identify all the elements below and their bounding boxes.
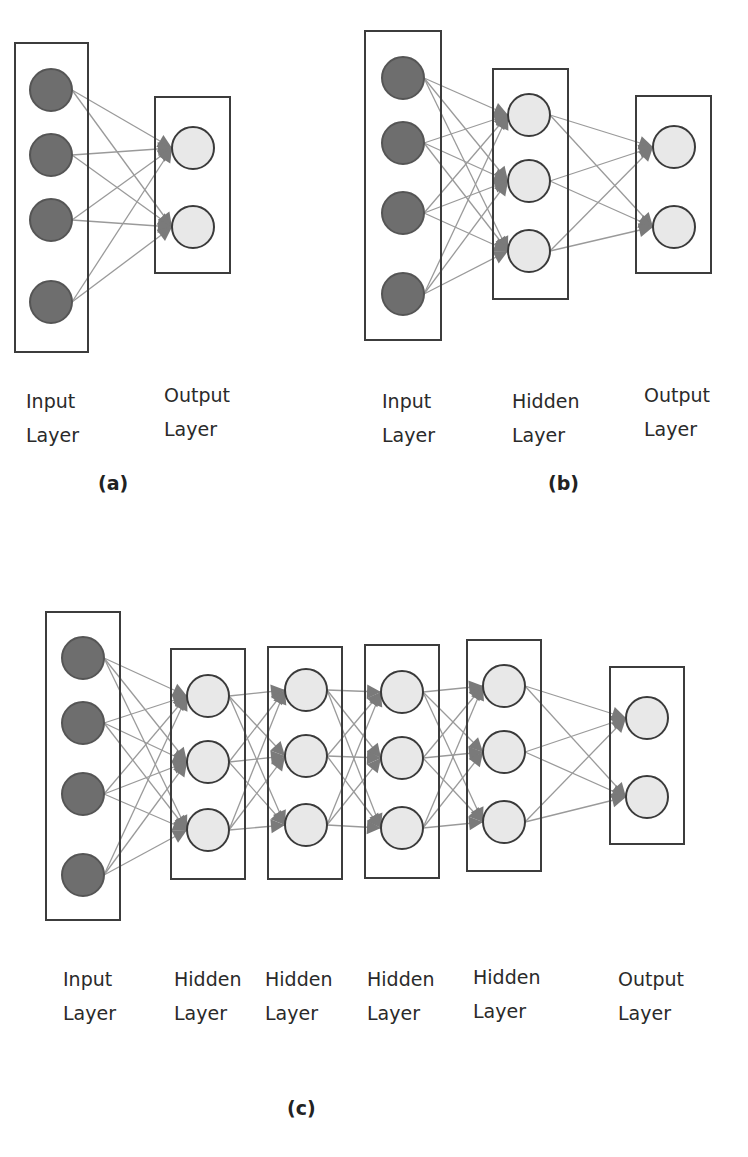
hidden-layer-label: Layer [473,994,526,1028]
output-node [626,776,668,818]
diagram-b [365,31,711,340]
hidden-node [483,665,525,707]
hidden-node [381,737,423,779]
connection-line [550,227,653,251]
connection-line [550,181,653,227]
input-node [382,57,424,99]
output-layer-label: Output [164,378,230,412]
input-layer-label: Input [382,384,431,418]
input-node [30,281,72,323]
output-layer-label: Layer [644,412,697,446]
input-node [62,773,104,815]
diagram-a [15,43,230,352]
input-layer-label: Layer [63,996,116,1030]
input-layer-label: Layer [26,418,79,452]
hidden-node [187,675,229,717]
hidden-layer-label: Layer [265,996,318,1030]
input-layer [365,31,441,340]
input-node [30,134,72,176]
arrowhead-icon [171,830,187,843]
output-layer [155,97,230,273]
hidden-layer-label: Hidden [473,960,540,994]
output-layer-label: Output [644,378,710,412]
connection-line [550,147,653,181]
hidden-node [508,160,550,202]
diagram-caption: (c) [287,1097,316,1119]
input-layer-label: Input [26,384,75,418]
input-node [30,69,72,111]
hidden-node [508,94,550,136]
input-node [62,637,104,679]
output-layer-label: Layer [618,996,671,1030]
output-node [172,127,214,169]
hidden-node [187,809,229,851]
connection-line [424,251,508,294]
output-node [626,697,668,739]
hidden-node [508,230,550,272]
hidden-layer-label: Layer [174,996,227,1030]
input-layer [46,612,120,920]
layers [46,612,684,920]
output-node [653,126,695,168]
hidden-node [187,741,229,783]
hidden-node [381,671,423,713]
input-node [62,854,104,896]
hidden-layer-label: Hidden [367,962,434,996]
connection-line [424,115,508,294]
connection-line [550,115,653,227]
hidden-layer-label: Hidden [174,962,241,996]
input-node [382,273,424,315]
hidden-node [483,801,525,843]
connection-line [104,696,187,875]
output-node [172,206,214,248]
input-layer-label: Input [63,962,112,996]
hidden-node [285,669,327,711]
hidden-node [285,804,327,846]
hidden-layer-label: Hidden [265,962,332,996]
diagram-c [46,612,684,920]
connection-line [550,147,653,251]
input-node [30,199,72,241]
diagram-caption: (b) [548,472,579,494]
input-layer-label: Layer [382,418,435,452]
output-layer-label: Layer [164,412,217,446]
hidden-layer-label: Layer [367,996,420,1030]
arrowheads [156,135,172,241]
hidden-node [285,735,327,777]
output-layer-label: Output [618,962,684,996]
input-node [382,192,424,234]
output-layer [636,96,711,273]
diagram-caption: (a) [98,472,128,494]
output-node [653,206,695,248]
input-node [382,122,424,164]
connection-line [104,723,187,830]
hidden-node [381,807,423,849]
hidden-layer-label: Layer [512,418,565,452]
hidden-node [483,731,525,773]
output-layer [610,667,684,844]
input-layer [15,43,88,352]
hidden-layer-label: Hidden [512,384,579,418]
layers [365,31,711,340]
connection-line [104,830,187,875]
input-node [62,702,104,744]
layers [15,43,230,352]
